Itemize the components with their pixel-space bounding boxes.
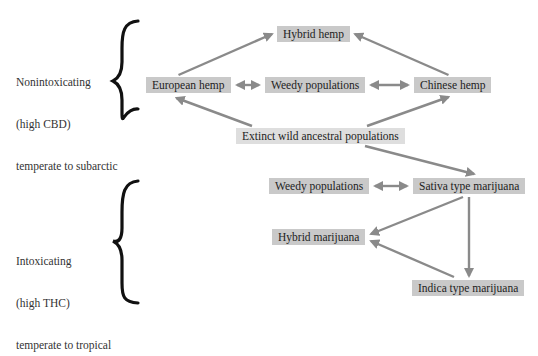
- node-indica-type-marijuana: Indica type marijuana: [412, 280, 524, 296]
- edge-extinct-ancestral-to-sativa-marijuana: [365, 146, 474, 174]
- node-weedy-populations-hemp: Weedy populations: [265, 77, 365, 93]
- node-european-hemp: European hemp: [146, 77, 231, 93]
- edge-extinct-ancestral-to-european-hemp: [177, 98, 253, 126]
- edge-indica-marijuana-to-hybrid-marijuana: [371, 241, 454, 277]
- edge-chinese-hemp-to-hybrid-hemp: [355, 34, 449, 75]
- node-sativa-type-marijuana: Sativa type marijuana: [413, 178, 525, 194]
- edge-extinct-ancestral-to-chinese-hemp: [367, 97, 449, 126]
- node-chinese-hemp: Chinese hemp: [414, 77, 491, 93]
- node-hybrid-hemp: Hybrid hemp: [277, 26, 350, 42]
- node-extinct-ancestral-populations: Extinct wild ancestral populations: [236, 128, 405, 144]
- edge-sativa-marijuana-to-hybrid-marijuana: [371, 197, 463, 234]
- group-label-line: temperate to tropical: [16, 338, 111, 352]
- brace-intoxicating: [113, 181, 138, 303]
- brace-nonintoxicating: [113, 21, 138, 119]
- edge-european-hemp-to-hybrid-hemp: [179, 34, 273, 75]
- node-hybrid-marijuana: Hybrid marijuana: [272, 229, 365, 245]
- node-weedy-populations-marijuana: Weedy populations: [269, 178, 369, 194]
